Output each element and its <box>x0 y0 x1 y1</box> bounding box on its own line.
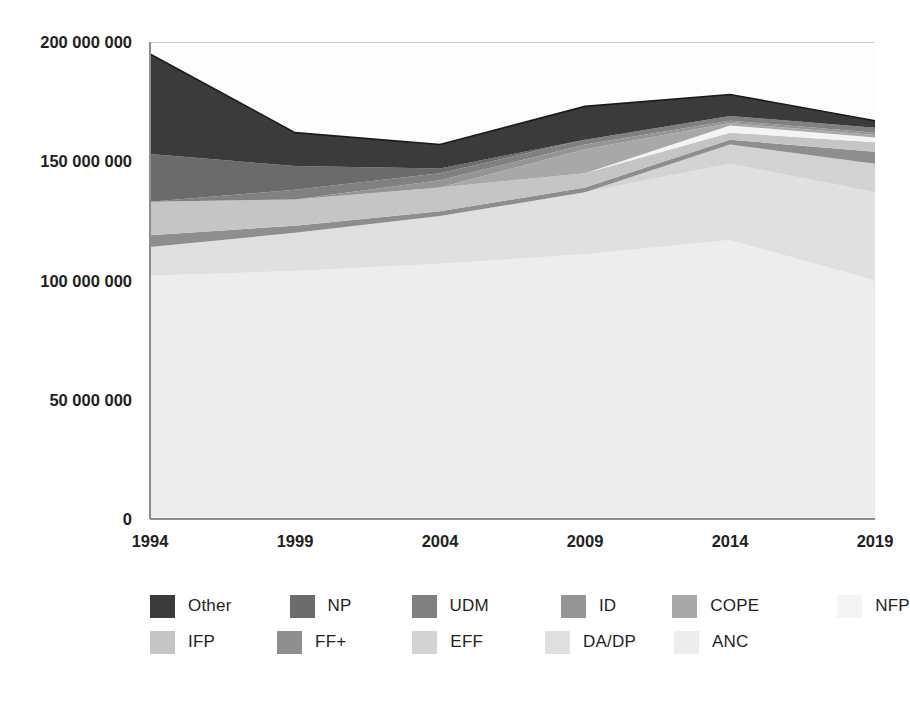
x-axis-tick-label: 2004 <box>422 532 460 550</box>
legend-item-eff[interactable]: EFF <box>412 631 483 654</box>
legend-swatch-icon <box>545 631 570 654</box>
legend-row-1: OtherNPUDMIDCOPENFP <box>0 588 903 624</box>
legend-swatch-icon <box>561 595 586 618</box>
legend-swatch-icon <box>412 631 437 654</box>
legend-item-ff-[interactable]: FF+ <box>277 631 346 654</box>
legend-swatch-icon <box>290 595 315 618</box>
legend-item-id[interactable]: ID <box>561 595 616 618</box>
legend-item-label: Other <box>188 596 232 616</box>
y-axis-tick-label: 50 000 000 <box>49 391 132 409</box>
legend-item-label: NFP <box>875 596 910 616</box>
legend-item-label: IFP <box>188 632 215 652</box>
legend-item-anc[interactable]: ANC <box>674 631 749 654</box>
legend-item-np[interactable]: NP <box>290 595 352 618</box>
x-axis-tick-label: 2019 <box>857 532 894 550</box>
x-axis-tick-label: 1994 <box>132 532 170 550</box>
x-axis-tick-label: 1999 <box>277 532 314 550</box>
legend-item-udm[interactable]: UDM <box>412 595 489 618</box>
y-axis-tick-label: 200 000 000 <box>40 33 132 51</box>
legend-item-cope[interactable]: COPE <box>672 595 759 618</box>
legend-swatch-icon <box>672 595 697 618</box>
legend-item-label: EFF <box>450 632 483 652</box>
chart-legend: OtherNPUDMIDCOPENFP IFPFF+EFFDA/DPANC <box>0 588 903 660</box>
y-axis-tick-label: 100 000 000 <box>40 272 132 290</box>
y-axis-tick-label: 0 <box>123 510 132 528</box>
legend-item-da-dp[interactable]: DA/DP <box>545 631 636 654</box>
x-axis-tick-label: 2014 <box>712 532 750 550</box>
y-axis-tick-label: 150 000 000 <box>40 152 132 170</box>
legend-item-label: FF+ <box>315 632 346 652</box>
legend-swatch-icon <box>412 595 437 618</box>
legend-item-label: ID <box>599 596 616 616</box>
legend-item-label: DA/DP <box>583 632 636 652</box>
legend-row-2: IFPFF+EFFDA/DPANC <box>0 624 903 660</box>
area-series-anc <box>150 240 875 519</box>
legend-item-ifp[interactable]: IFP <box>150 631 215 654</box>
legend-swatch-icon <box>150 631 175 654</box>
legend-swatch-icon <box>150 595 175 618</box>
legend-item-nfp[interactable]: NFP <box>837 595 910 618</box>
legend-item-other[interactable]: Other <box>150 595 232 618</box>
legend-item-label: ANC <box>712 632 749 652</box>
x-axis-tick-label: 2009 <box>567 532 604 550</box>
legend-swatch-icon <box>837 595 862 618</box>
chart-canvas: 050 000 000100 000 000150 000 000200 000… <box>0 0 903 580</box>
legend-swatch-icon <box>674 631 699 654</box>
plot-area-container: 050 000 000100 000 000150 000 000200 000… <box>0 0 903 580</box>
legend-item-label: UDM <box>450 596 489 616</box>
legend-swatch-icon <box>277 631 302 654</box>
legend-item-label: COPE <box>710 596 759 616</box>
legend-item-label: NP <box>328 596 352 616</box>
